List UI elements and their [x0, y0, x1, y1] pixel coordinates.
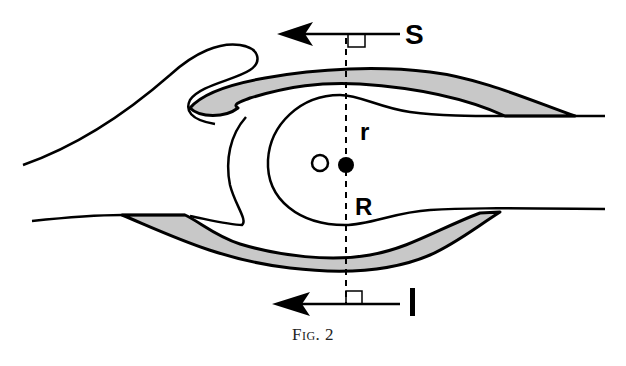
label-r-small: r	[360, 118, 369, 145]
center-point	[338, 157, 354, 173]
inner-lobe-contour	[268, 95, 505, 225]
figure-caption: Fig. 2	[0, 325, 626, 345]
diagram-figure: S r R	[0, 0, 626, 366]
upper-shaded-band	[190, 69, 575, 116]
label-r-large: R	[355, 193, 372, 220]
figure-page: S r R Fig. 2	[0, 0, 626, 366]
top-right-angle-marker	[348, 34, 365, 47]
label-i	[410, 288, 415, 316]
label-s: S	[405, 19, 424, 50]
left-inner-curve	[190, 117, 246, 225]
open-point-o	[312, 155, 328, 171]
lower-right-tail	[430, 208, 605, 210]
bottom-right-angle-marker	[346, 291, 362, 304]
